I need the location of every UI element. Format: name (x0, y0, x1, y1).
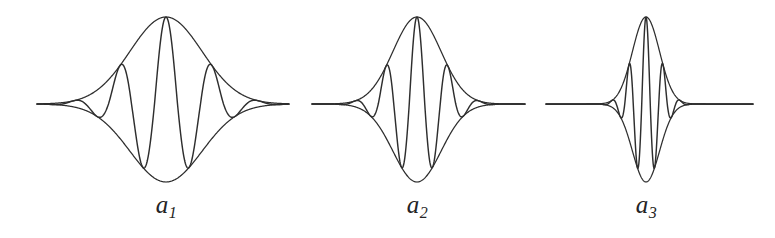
panel-label-a3-base: a (636, 191, 649, 218)
panel-label-a3: a3 (636, 192, 657, 217)
panel-label-a2-base: a (407, 191, 420, 218)
panel-label-a2-subscript: 2 (420, 204, 428, 221)
panel-label-a1: a1 (156, 192, 177, 217)
wavelet-plot-canvas (0, 0, 775, 238)
panel-label-a1-subscript: 1 (169, 204, 177, 221)
panel-label-a3-subscript: 3 (649, 204, 657, 221)
wavelet-figure: a1 a2 a3 (0, 0, 775, 238)
plot-background (0, 0, 775, 238)
panel-label-a2: a2 (407, 192, 428, 217)
panel-label-a1-base: a (156, 191, 169, 218)
